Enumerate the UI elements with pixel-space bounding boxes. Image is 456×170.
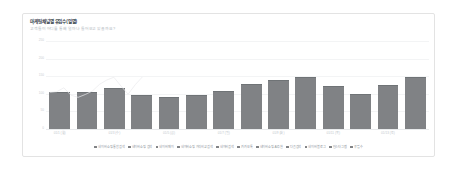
legend-swatch-icon xyxy=(128,146,131,149)
bar-series xyxy=(46,41,429,129)
legend-swatch-icon xyxy=(237,146,240,149)
chart-legend: 네이버쇼핑 통합검색네이버쇼핑 검색네이버페이네이버쇼핑 가격비교검색네이버검색… xyxy=(29,145,428,149)
bar-column[interactable] xyxy=(238,41,265,129)
bar[interactable] xyxy=(77,92,98,129)
legend-label: 네이버쇼핑 검색 xyxy=(132,145,153,149)
legend-swatch-icon xyxy=(94,146,97,149)
legend-label: 유입수 xyxy=(354,145,363,149)
legend-label: 네이버쇼핑 가격비교검색 xyxy=(181,145,213,149)
bar[interactable] xyxy=(350,94,371,129)
x-axis-tick: 01/5 (금) xyxy=(163,131,175,135)
legend-label: 네이버블로그 xyxy=(308,145,325,149)
bar-cap xyxy=(295,77,316,78)
x-axis-tick: 01/3 (수) xyxy=(108,131,120,135)
y-axis-tick: 0 xyxy=(42,127,44,130)
legend-item[interactable]: 인스타그램 xyxy=(329,145,347,149)
bar-cap xyxy=(241,84,262,85)
bar-column[interactable] xyxy=(320,41,347,129)
bar-column[interactable] xyxy=(46,41,73,129)
bar[interactable] xyxy=(159,97,180,129)
bar-column[interactable] xyxy=(265,41,292,129)
bar[interactable] xyxy=(323,86,344,129)
legend-swatch-icon xyxy=(286,146,289,149)
y-axis-tick: 150 xyxy=(39,75,44,78)
bar[interactable] xyxy=(104,88,125,129)
bar-cap xyxy=(323,86,344,87)
page-title: 마케팅채널별 유입수(일별) xyxy=(30,19,428,25)
bar-column[interactable] xyxy=(128,41,155,129)
y-axis-tick: 50 xyxy=(41,110,44,113)
legend-swatch-icon xyxy=(177,146,180,149)
legend-swatch-icon xyxy=(329,146,332,149)
x-axis-baseline xyxy=(46,129,429,130)
bar-cap xyxy=(159,97,180,98)
legend-label: 네이버검색 xyxy=(220,145,234,149)
bar[interactable] xyxy=(131,95,152,129)
legend-item[interactable]: 네이버쇼핑 가격비교검색 xyxy=(177,145,213,149)
bar-column[interactable] xyxy=(347,41,374,129)
bar[interactable] xyxy=(378,85,399,129)
legend-swatch-icon xyxy=(156,146,159,149)
bar[interactable] xyxy=(295,77,316,129)
bar-column[interactable] xyxy=(183,41,210,129)
legend-swatch-icon xyxy=(216,146,219,149)
legend-label: 네이버쇼핑 AI추천 xyxy=(260,145,283,149)
legend-swatch-icon xyxy=(350,146,353,149)
legend-item[interactable]: 네이버쇼핑 검색 xyxy=(128,145,152,149)
bar[interactable] xyxy=(268,80,289,129)
bar[interactable] xyxy=(241,84,262,129)
bar-column[interactable] xyxy=(374,41,401,129)
legend-label: 인스타그램 xyxy=(333,145,347,149)
bar-cap xyxy=(77,92,98,93)
bar-cap xyxy=(405,77,426,78)
legend-item[interactable]: 유입수 xyxy=(350,145,362,149)
bar[interactable] xyxy=(405,77,426,129)
bar-cap xyxy=(131,95,152,96)
legend-swatch-icon xyxy=(305,146,308,149)
bar[interactable] xyxy=(186,95,207,129)
card-header: 마케팅채널별 유입수(일별) 고객들이 어디를 통해 얼마나 들어오고 있을까요… xyxy=(30,19,428,32)
bar-cap xyxy=(350,94,371,95)
legend-item[interactable]: 네이버페이 xyxy=(156,145,174,149)
legend-item[interactable]: 네이버검색 xyxy=(216,145,234,149)
x-axis-tick: 01/13 (토) xyxy=(381,131,395,135)
bar-cap xyxy=(268,80,289,81)
card-subtitle: 고객들이 어디를 통해 얼마나 들어오고 있을까요? xyxy=(30,26,428,32)
bar-cap xyxy=(186,95,207,96)
bar-cap xyxy=(213,91,234,92)
legend-label: 다음검색 xyxy=(290,145,301,149)
legend-swatch-icon xyxy=(256,146,259,149)
x-axis-tick: 01/1 (월) xyxy=(54,131,66,135)
legend-item[interactable]: 다음검색 xyxy=(286,145,301,149)
bar-cap xyxy=(104,88,125,89)
y-axis: 250200150100500 xyxy=(30,41,46,129)
legend-label: 카카오톡 xyxy=(241,145,252,149)
bar-column[interactable] xyxy=(402,41,429,129)
legend-item[interactable]: 카카오톡 xyxy=(237,145,252,149)
marketing-channel-chart-card: 마케팅채널별 유입수(일별) 고객들이 어디를 통해 얼마나 들어오고 있을까요… xyxy=(22,13,435,157)
bar-cap xyxy=(49,92,70,93)
legend-label: 네이버페이 xyxy=(159,145,173,149)
screenshot-root: 마케팅채널별 유입수(일별) 고객들이 어디를 통해 얼마나 들어오고 있을까요… xyxy=(0,0,456,170)
bar[interactable] xyxy=(49,92,70,129)
legend-item[interactable]: 네이버블로그 xyxy=(305,145,326,149)
y-axis-tick: 200 xyxy=(39,57,44,60)
x-axis-tick: 01/7 (일) xyxy=(218,131,230,135)
bar[interactable] xyxy=(213,91,234,129)
chart-plot-area: 250200150100500 01/1 (월)01/3 (수)01/5 (금)… xyxy=(30,41,429,141)
bar-cap xyxy=(378,85,399,86)
bar-column[interactable] xyxy=(292,41,319,129)
x-axis-tick: 01/11 (목) xyxy=(327,131,340,135)
legend-item[interactable]: 네이버쇼핑 AI추천 xyxy=(256,145,283,149)
bar-column[interactable] xyxy=(73,41,100,129)
x-axis-tick: 01/9 (화) xyxy=(273,131,285,135)
legend-item[interactable]: 네이버쇼핑 통합검색 xyxy=(94,145,124,149)
x-axis-labels: 01/1 (월)01/3 (수)01/5 (금)01/7 (일)01/9 (화)… xyxy=(46,131,429,139)
legend-label: 네이버쇼핑 통합검색 xyxy=(98,145,124,149)
y-axis-tick: 100 xyxy=(39,92,44,95)
y-axis-tick: 250 xyxy=(39,39,44,42)
bar-column[interactable] xyxy=(210,41,237,129)
bar-column[interactable] xyxy=(155,41,182,129)
bar-column[interactable] xyxy=(101,41,128,129)
